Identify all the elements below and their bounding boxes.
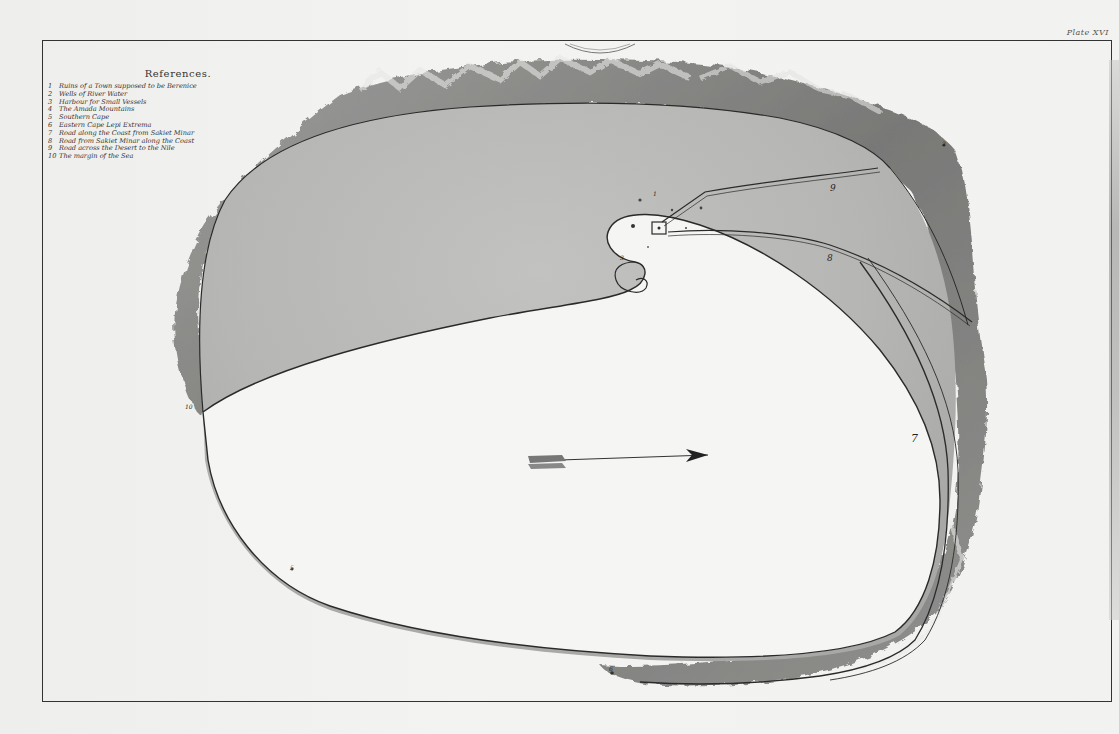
label-road-9: 9 bbox=[830, 183, 836, 193]
label-margin-10: 10 bbox=[185, 403, 193, 410]
label-harbour-3: 3 bbox=[620, 254, 624, 261]
label-mount-2: 2 bbox=[942, 140, 946, 147]
label-road-8: 8 bbox=[827, 253, 833, 263]
references-title: References. bbox=[88, 68, 268, 79]
label-ruins-1: 1 bbox=[653, 190, 657, 197]
map-plate: Plate XVI bbox=[0, 0, 1119, 734]
reference-item: 10The margin of the Sea bbox=[48, 153, 268, 161]
label-cape-6: 6 bbox=[609, 665, 613, 672]
references-legend: References. 1Ruins of a Town supposed to… bbox=[48, 68, 268, 161]
label-road-7: 7 bbox=[911, 432, 918, 445]
library-stamp bbox=[565, 44, 635, 53]
label-cape-5: 5 bbox=[290, 564, 294, 571]
